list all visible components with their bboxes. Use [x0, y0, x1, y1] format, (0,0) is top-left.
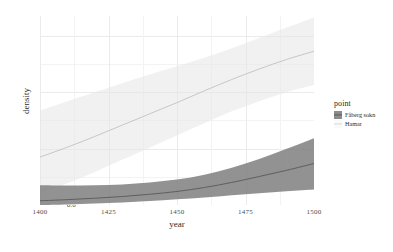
y-axis-title: density — [21, 61, 31, 141]
legend-item-faberg-sokn[interactable]: Fåberg sokn — [334, 111, 392, 119]
legend-item-hamar[interactable]: Hamar — [334, 120, 392, 128]
legend: point Fåberg sokn Hamar — [334, 99, 392, 129]
x-axis-tick-label: 1425 — [89, 208, 129, 216]
x-axis-tick-label: 1450 — [157, 208, 197, 216]
x-axis-tick-label: 1500 — [294, 208, 334, 216]
x-axis-tick-label: 1475 — [226, 208, 266, 216]
legend-item-label: Fåberg sokn — [345, 111, 375, 119]
chart-root: 0.0 0.2 0.4 0.6 1400 1425 1450 1475 1500… — [0, 0, 393, 252]
legend-key-hamar-icon — [334, 120, 342, 128]
plot-panel — [40, 16, 314, 205]
legend-title: point — [334, 99, 392, 108]
legend-item-label: Hamar — [345, 120, 362, 128]
x-axis-title: year — [40, 219, 314, 229]
legend-key-faberg-sokn-icon — [334, 111, 342, 119]
x-axis-tick-label: 1400 — [20, 208, 60, 216]
plot-series-layer — [40, 16, 314, 205]
